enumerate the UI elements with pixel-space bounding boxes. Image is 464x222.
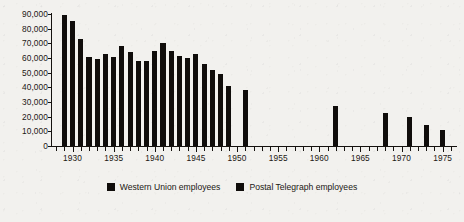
x-axis-tick-label: 1955 [269,153,288,163]
x-axis-tick-mark [237,147,238,152]
x-axis-tick-mark [138,147,139,151]
bar [243,90,248,146]
x-axis-tick-mark [64,147,65,151]
y-axis-tick-label: 20,000 [2,112,48,121]
x-axis-tick-mark [278,147,279,152]
x-axis-tick-mark [262,147,263,151]
y-axis-tick-mark [48,102,51,103]
chart-legend: Western Union employeesPostal Telegraph … [0,182,464,192]
y-axis-tick-label: 80,000 [2,24,48,33]
x-axis-tick-mark [344,147,345,151]
x-axis-tick-mark [319,147,320,152]
x-axis-tick-mark [204,147,205,151]
x-axis-tick-mark [451,147,452,151]
bar [424,125,429,146]
x-axis-tick-label: 1975 [433,153,452,163]
x-axis-tick-mark [97,147,98,151]
bar [95,59,100,146]
x-axis-tick-mark [418,147,419,151]
x-axis-tick-mark [147,147,148,151]
y-axis-tick-label: 30,000 [2,98,48,107]
y-axis-tick-mark [48,87,51,88]
y-axis-tick-mark [48,29,51,30]
y-axis-tick-mark [48,14,51,15]
bar [103,54,108,146]
x-axis-tick-mark [89,147,90,151]
y-axis-tick-mark [48,43,51,44]
bar [160,43,165,146]
plot-area [52,14,455,146]
bar [152,51,157,146]
x-axis-tick-mark [130,147,131,151]
y-axis-tick-label: 10,000 [2,127,48,136]
bar [218,74,223,146]
x-axis-tick-mark [114,147,115,152]
y-axis-tick-mark [48,117,51,118]
bar [177,56,182,146]
x-axis-tick-mark [385,147,386,151]
x-axis-tick-mark [434,147,435,151]
x-axis-tick-mark [410,147,411,151]
x-axis-tick-mark [155,147,156,152]
y-axis-tick-label: 70,000 [2,39,48,48]
x-axis-tick-mark [286,147,287,151]
y-axis-tick-mark [48,146,51,147]
x-axis-tick-label: 1950 [228,153,247,163]
bar [407,117,412,146]
y-axis-tick-label: 0 [2,142,48,151]
y-axis-tick-mark [48,131,51,132]
x-axis-tick-mark [81,147,82,151]
y-axis-tick-label: 40,000 [2,83,48,92]
x-axis-tick-mark [221,147,222,151]
x-axis-tick-mark [393,147,394,151]
bar [128,52,133,146]
x-axis-tick-mark [212,147,213,151]
y-axis-tick-label: 60,000 [2,54,48,63]
legend-item: Postal Telegraph employees [236,182,357,192]
bar [144,61,149,146]
x-axis-tick-label: 1930 [63,153,82,163]
x-axis-tick-mark [171,147,172,151]
bar-chart: 010,00020,00030,00040,00050,00060,00070,… [0,0,464,222]
x-axis-tick-label: 1940 [145,153,164,163]
x-axis-tick-mark [377,147,378,151]
x-axis-tick-mark [196,147,197,152]
x-axis-tick-mark [426,147,427,151]
x-axis-tick-mark [188,147,189,151]
x-axis-tick-mark [443,147,444,152]
bar [119,46,124,146]
x-axis-tick-mark [179,147,180,151]
x-axis-tick-label: 1970 [392,153,411,163]
bar [70,21,75,146]
bar [62,15,67,146]
x-axis-tick-mark [369,147,370,151]
x-axis-tick-label: 1935 [104,153,123,163]
y-axis-tick-label: 90,000 [2,10,48,19]
x-axis-tick-mark [73,147,74,152]
x-axis-tick-mark [56,147,57,151]
x-axis-tick-label: 1960 [310,153,329,163]
x-axis-tick-mark [270,147,271,151]
y-axis-tick-label: 50,000 [2,68,48,77]
bar [333,106,338,146]
x-axis-tick-mark [122,147,123,151]
x-axis-tick-mark [295,147,296,151]
x-axis-tick-mark [303,147,304,151]
x-axis-tick-label: 1945 [186,153,205,163]
bar [185,58,190,146]
x-axis-tick-mark [245,147,246,151]
x-axis-tick-mark [336,147,337,151]
x-axis-tick-mark [352,147,353,151]
bar [210,70,215,146]
bar [169,51,174,146]
legend-swatch-icon [236,183,244,191]
bar [78,39,83,146]
bar [202,64,207,146]
bar [86,57,91,146]
x-axis-tick-mark [105,147,106,151]
bar [111,57,116,146]
x-axis-tick-mark [163,147,164,151]
bar [226,86,231,146]
legend-label: Western Union employees [120,182,221,192]
x-axis-tick-label: 1965 [351,153,370,163]
